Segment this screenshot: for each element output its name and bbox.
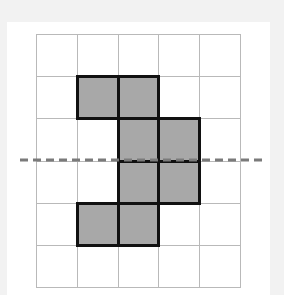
grid-cell xyxy=(199,34,241,77)
grid-cell xyxy=(158,76,200,119)
grid-cell xyxy=(118,34,160,77)
grid-cell xyxy=(77,245,119,288)
grid-cell xyxy=(36,76,78,119)
grid-cell xyxy=(158,34,200,77)
grid-cell xyxy=(199,245,241,288)
grid-cell xyxy=(36,118,78,161)
square-grid xyxy=(36,34,240,287)
grid-cell xyxy=(158,203,200,246)
shaded-cell xyxy=(157,117,201,162)
grid-cell xyxy=(77,161,119,204)
grid-cell xyxy=(77,118,119,161)
grid-cell xyxy=(199,118,241,161)
grid-cell xyxy=(199,76,241,119)
grid-cell xyxy=(77,34,119,77)
grid-cell xyxy=(199,161,241,204)
shaded-cell xyxy=(76,75,120,120)
grid-cell xyxy=(36,203,78,246)
shaded-cell xyxy=(157,160,201,205)
shaded-cell xyxy=(117,117,161,162)
shaded-cell xyxy=(76,202,120,247)
grid-cell xyxy=(36,34,78,77)
grid-cell xyxy=(36,245,78,288)
grid-cell xyxy=(36,161,78,204)
grid-cell xyxy=(118,245,160,288)
shaded-cell xyxy=(117,75,161,120)
grid-cell xyxy=(199,203,241,246)
shaded-cell xyxy=(117,202,161,247)
grid-cell xyxy=(158,245,200,288)
shaded-cell xyxy=(117,160,161,205)
